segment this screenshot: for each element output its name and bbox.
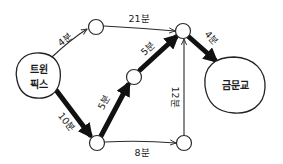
edge-label-e-b: 12분 bbox=[170, 86, 181, 107]
edge-label-d-c: 5분 bbox=[95, 93, 112, 112]
edge-label-d-e: 8분 bbox=[134, 147, 149, 158]
edge-label-a-b: 21분 bbox=[128, 13, 149, 24]
edge-a-to-b bbox=[104, 26, 175, 31]
route-graph-diagram: 트윈 픽스 금문교 4분 21분 10분 5분 5분 4분 8분 12분 bbox=[0, 0, 283, 164]
edge-label-b-end: 4분 bbox=[202, 28, 220, 47]
node-golden-gate-label: 금문교 bbox=[222, 80, 249, 91]
node-d bbox=[90, 136, 105, 151]
edge-d-to-e bbox=[105, 141, 176, 143]
node-a bbox=[89, 20, 104, 35]
node-twin-peaks bbox=[16, 53, 60, 98]
node-c bbox=[127, 70, 142, 85]
edge-label-start-a: 4분 bbox=[56, 30, 75, 48]
node-twin-peaks-label-line1: 트윈 bbox=[30, 63, 48, 75]
node-b bbox=[176, 24, 191, 39]
node-e bbox=[177, 136, 192, 151]
node-twin-peaks-label-line2: 픽스 bbox=[30, 78, 48, 90]
